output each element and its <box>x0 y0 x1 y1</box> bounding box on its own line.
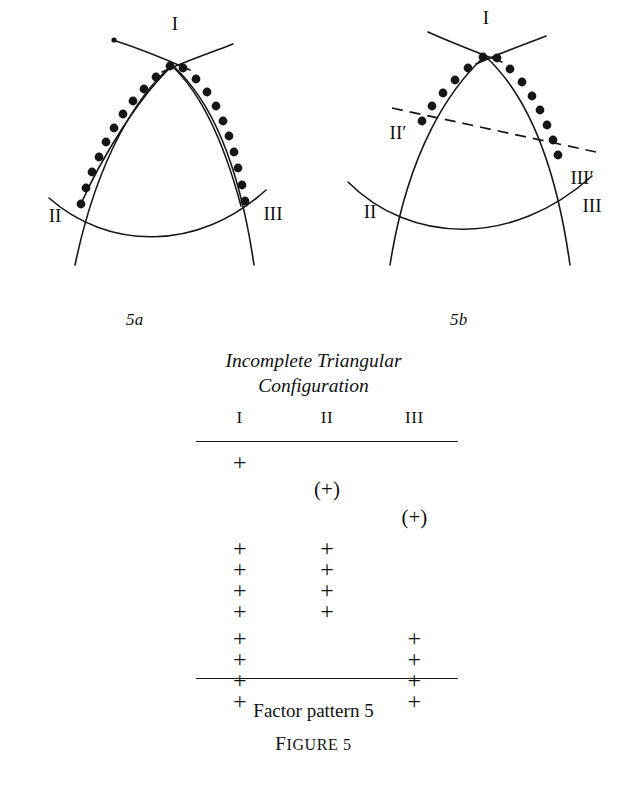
subcaption-5b: 5b <box>450 310 467 330</box>
subcaption-5a: 5a <box>126 310 143 330</box>
diagram-5a: I II III <box>18 0 318 300</box>
pattern-caption: Factor pattern 5 <box>0 700 627 722</box>
diagram-5b-label-left: II <box>364 201 377 222</box>
table-cell-mark: + <box>196 452 283 473</box>
figure-caption-first-letter: F <box>275 733 286 754</box>
apex-crossing-5a <box>113 40 233 72</box>
arc-right-5b <box>485 56 570 265</box>
diagram-5b-label-right: III <box>583 195 602 216</box>
diagram-5b-label-right-prime: III′ <box>570 167 593 188</box>
bead <box>428 102 437 111</box>
bead <box>506 65 515 74</box>
bead <box>219 117 228 126</box>
figure-caption-rest: IGURE 5 <box>287 736 352 753</box>
main-caption-line-2: Configuration <box>0 373 627 398</box>
table-body: +(+)(+)++++++++++++++++ <box>196 442 458 678</box>
apex-crossing-5b <box>428 32 546 64</box>
diagram-5b-label-apex: I <box>483 7 489 28</box>
arc-right-5a <box>172 65 254 265</box>
table-cell-mark: + <box>283 601 370 622</box>
main-caption: Incomplete Triangular Configuration <box>0 348 627 398</box>
bead <box>203 88 212 97</box>
diagram-5b-label-left-prime: II′ <box>390 122 407 143</box>
table-column-header-3: III <box>371 408 458 434</box>
figure-caption: FIGURE 5 <box>0 733 627 755</box>
bead-group-right-5b <box>493 54 563 160</box>
table-cell-mark: (+) <box>283 479 370 500</box>
bead <box>225 132 234 141</box>
bead <box>129 97 138 106</box>
bead <box>230 148 239 157</box>
table-row: + <box>196 452 458 473</box>
diagram-5a-svg: I II III <box>18 0 318 300</box>
arc-bottom-5a <box>49 190 266 237</box>
table-column-header-2: II <box>283 408 370 434</box>
bead <box>518 78 527 87</box>
whisker-endpoint-dot <box>111 37 116 42</box>
diagrams-row: I II III <box>0 0 627 300</box>
bead <box>451 76 460 85</box>
diagram-5b-svg: I II′ III′ II III <box>330 0 627 300</box>
bead <box>88 168 97 177</box>
bead <box>536 106 545 115</box>
figure-5-root: I II III <box>0 0 627 789</box>
diagram-5a-label-apex: I <box>172 13 178 34</box>
bead <box>234 164 243 173</box>
bead <box>418 117 427 126</box>
table-column-header-1: I <box>196 408 283 434</box>
bead-group-left-5a <box>77 62 175 209</box>
bead <box>82 184 91 193</box>
bead <box>464 64 473 73</box>
bead <box>192 75 201 84</box>
bead <box>554 151 563 160</box>
bead <box>212 102 221 111</box>
table-row: (+) <box>196 507 458 528</box>
bead <box>119 110 128 119</box>
table-header-row: I II III <box>196 408 458 434</box>
bead <box>110 124 119 133</box>
bead <box>95 153 104 162</box>
table-cell-mark: (+) <box>371 507 458 528</box>
arc-bottom-5b <box>348 176 592 229</box>
table-cell-mark: + <box>196 601 283 622</box>
bead <box>102 138 111 147</box>
bead <box>77 200 86 209</box>
diagram-5a-label-right: III <box>264 203 283 224</box>
bead <box>140 85 149 94</box>
bead-path-left-5a <box>80 66 172 206</box>
bead <box>528 92 537 101</box>
diagram-5b: I II′ III′ II III <box>330 0 627 300</box>
bead <box>152 73 161 82</box>
diagram-5a-label-left: II <box>49 205 62 226</box>
bead <box>543 121 552 130</box>
main-caption-line-1: Incomplete Triangular <box>0 348 627 373</box>
bead <box>439 89 448 98</box>
table-row: ++ <box>196 601 458 622</box>
factor-pattern-table: I II III +(+)(+)++++++++++++++++ <box>196 408 458 679</box>
table-row: (+) <box>196 479 458 500</box>
arc-left-5b <box>390 56 485 265</box>
bead <box>238 181 247 190</box>
bead <box>241 197 250 206</box>
dashed-secant-line-5b <box>392 108 596 152</box>
